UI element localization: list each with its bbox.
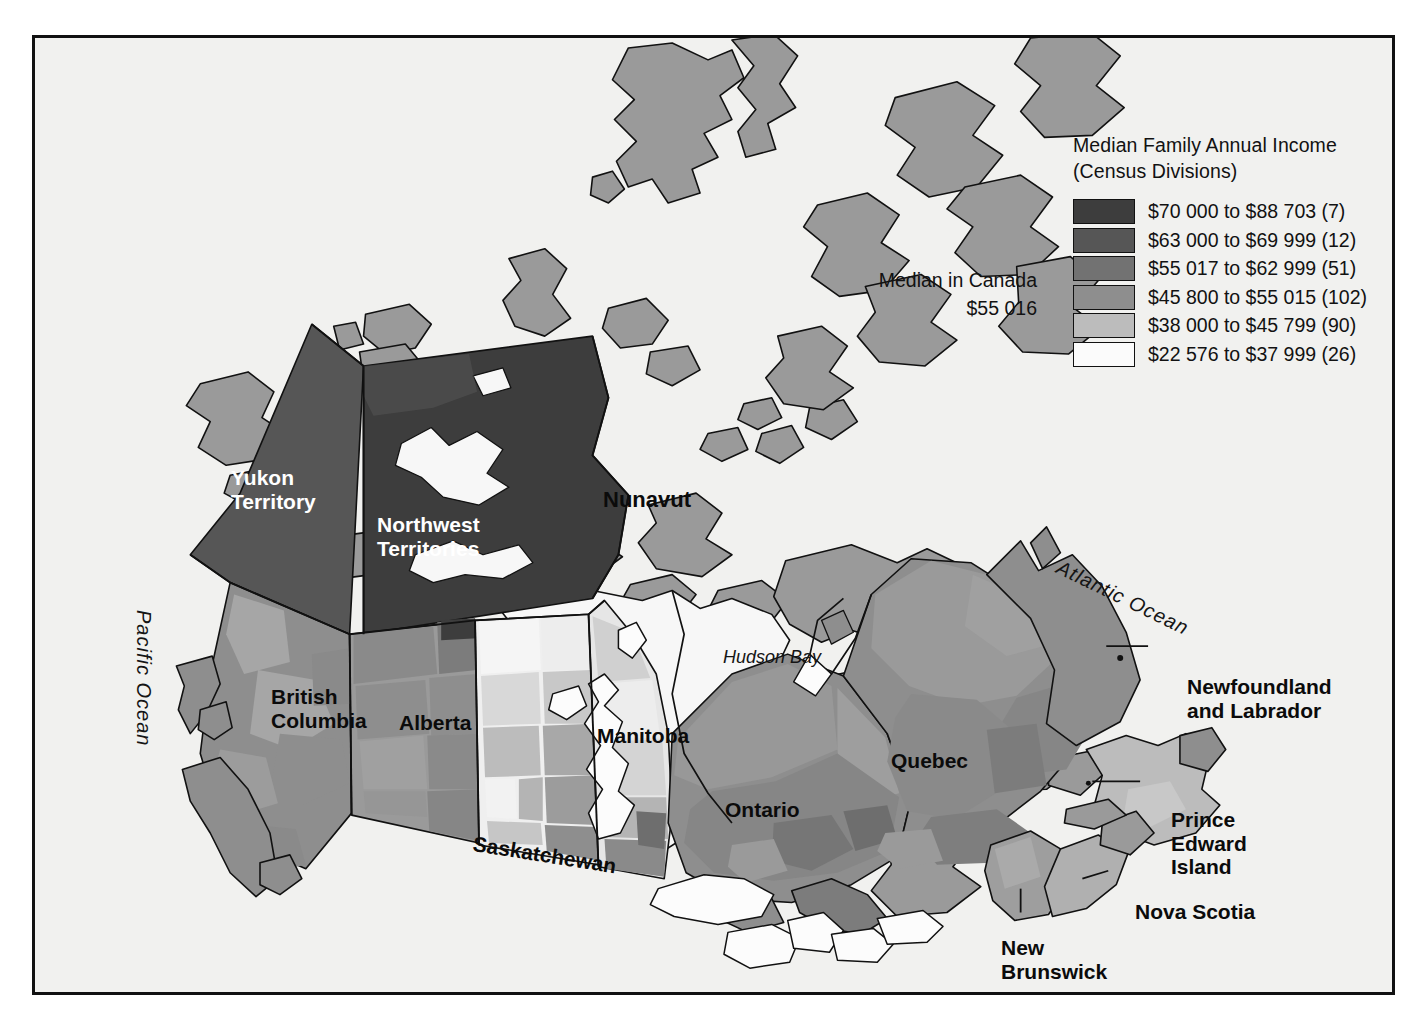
median-note-line1: Median in Canada — [827, 266, 1037, 294]
legend-title-line2: (Census Divisions) — [1073, 159, 1403, 185]
legend-swatch-5 — [1073, 342, 1135, 367]
legend-swatch-1 — [1073, 228, 1135, 253]
legend-row-1[interactable]: $63 000 to $69 999 (12) — [1073, 226, 1403, 255]
median-note-line2: $55 016 — [827, 294, 1037, 322]
legend-label-3: $45 800 to $55 015 (102) — [1148, 286, 1367, 309]
legend-label-4: $38 000 to $45 799 (90) — [1148, 314, 1356, 337]
label-hudson-bay: Hudson Bay — [723, 647, 821, 668]
label-pacific-ocean: Pacific Ocean — [132, 610, 155, 746]
legend-title-line1: Median Family Annual Income — [1073, 133, 1403, 159]
region-yukon[interactable] — [190, 324, 363, 634]
legend-items: $70 000 to $88 703 (7)$63 000 to $69 999… — [1073, 197, 1403, 368]
legend-row-2[interactable]: $55 017 to $62 999 (51) — [1073, 254, 1403, 283]
legend-label-5: $22 576 to $37 999 (26) — [1148, 343, 1356, 366]
legend-swatch-4 — [1073, 313, 1135, 338]
legend-title: Median Family Annual Income (Census Divi… — [1073, 133, 1403, 184]
legend-row-4[interactable]: $38 000 to $45 799 (90) — [1073, 311, 1403, 340]
legend-row-5[interactable]: $22 576 to $37 999 (26) — [1073, 340, 1403, 369]
legend-label-1: $63 000 to $69 999 (12) — [1148, 229, 1356, 252]
legend-row-3[interactable]: $45 800 to $55 015 (102) — [1073, 283, 1403, 312]
median-in-canada-note: Median in Canada $55 016 — [827, 266, 1037, 323]
region-saskatchewan[interactable] — [475, 614, 598, 864]
legend-swatch-2 — [1073, 256, 1135, 281]
legend-label-2: $55 017 to $62 999 (51) — [1148, 257, 1356, 280]
legend-swatch-3 — [1073, 285, 1135, 310]
legend-label-0: $70 000 to $88 703 (7) — [1148, 200, 1345, 223]
region-alberta[interactable] — [350, 618, 479, 843]
legend: Median Family Annual Income (Census Divi… — [1073, 133, 1403, 368]
map-frame: Yukon Territory Northwest Territories Nu… — [32, 35, 1395, 995]
legend-row-0[interactable]: $70 000 to $88 703 (7) — [1073, 197, 1403, 226]
legend-swatch-0 — [1073, 199, 1135, 224]
